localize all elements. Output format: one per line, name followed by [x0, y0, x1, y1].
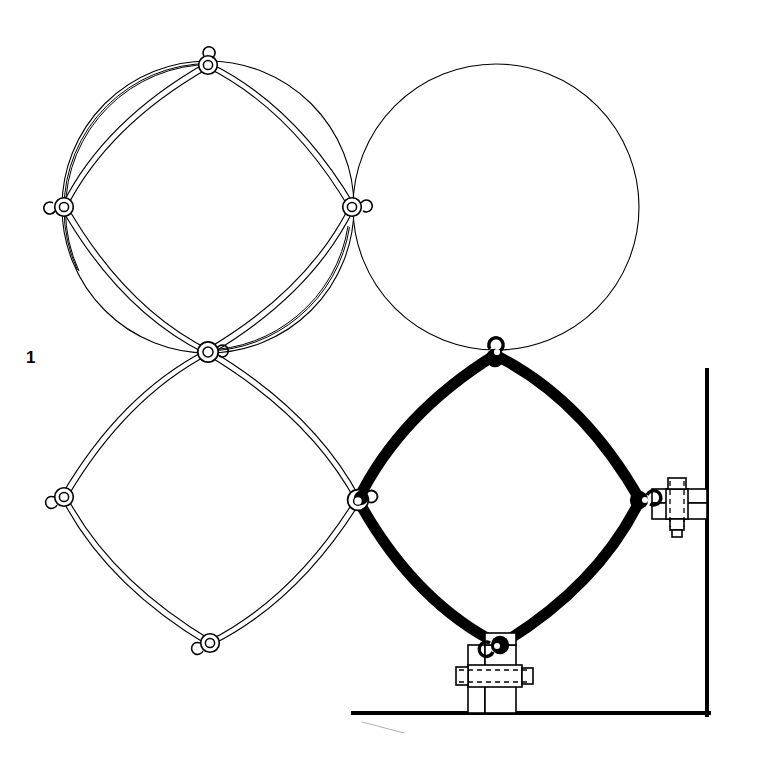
joint-center-bore: [203, 347, 213, 357]
joint-bottom-bore: [205, 638, 214, 647]
joint-left-upper-bore: [59, 202, 68, 211]
joint-lower-bold-bore: [494, 643, 500, 649]
floor-bracket-bolt-body: [468, 665, 522, 687]
joint-right-upper-bore: [347, 202, 356, 211]
wall-bracket-hex-head: [668, 478, 686, 489]
technical-drawing: [0, 0, 762, 784]
joint-mid-bore: [354, 497, 363, 506]
joint-upper-bold-bore: [494, 349, 500, 355]
wall-bracket-bolt-body: [666, 489, 688, 519]
figure-canvas: 1: [0, 0, 762, 784]
wall-bracket-hex-nut: [670, 519, 684, 530]
joint-top-bore: [203, 60, 212, 69]
joint-lower-bold-core: [491, 636, 509, 654]
wall-bracket-washer: [672, 530, 682, 537]
joint-left-lower-bore: [59, 492, 68, 501]
joint-right-bold-bore: [642, 497, 648, 503]
figure-number-label: 1: [26, 349, 35, 366]
drawing-background: [0, 0, 762, 784]
